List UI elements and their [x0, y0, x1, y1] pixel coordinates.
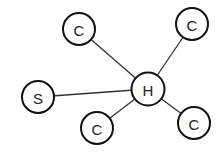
- node-c2: C: [176, 8, 208, 40]
- node-c3-label: C: [92, 121, 103, 138]
- node-c1: C: [63, 13, 95, 45]
- edges: [38, 24, 194, 128]
- node-c3: C: [81, 112, 113, 144]
- node-c4-label: C: [189, 116, 200, 133]
- node-h-label: H: [143, 82, 154, 99]
- nodes: H C C S C C: [22, 8, 210, 144]
- node-h: H: [132, 73, 165, 106]
- node-c2-label: C: [187, 17, 198, 34]
- node-c4: C: [178, 107, 210, 139]
- node-s-label: S: [33, 90, 43, 107]
- node-s: S: [22, 81, 54, 113]
- graph-diagram: H C C S C C: [0, 0, 221, 155]
- node-c1-label: C: [74, 22, 85, 39]
